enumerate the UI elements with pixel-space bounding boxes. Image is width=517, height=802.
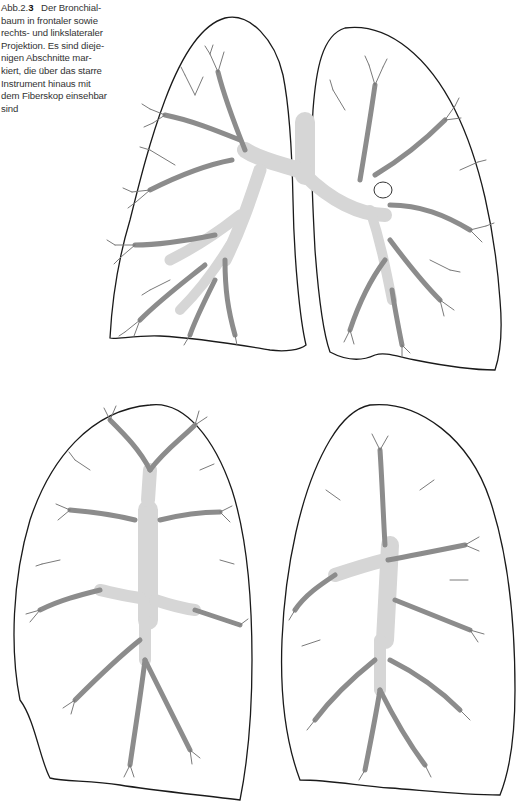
left-lateral-view xyxy=(282,405,515,795)
right-lung-outline xyxy=(110,17,306,351)
bronchial-tree-illustration xyxy=(0,0,517,802)
right-lateral-view xyxy=(14,405,252,800)
frontal-view xyxy=(107,17,501,370)
